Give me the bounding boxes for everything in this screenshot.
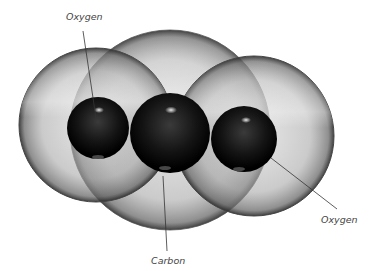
nucleus-carbon xyxy=(130,93,210,173)
nucleus-oxygen-right xyxy=(211,106,277,172)
label-oxygen-right: Oxygen xyxy=(321,214,358,225)
label-oxygen-left: Oxygen xyxy=(66,11,103,22)
nucleus-oxygen-left xyxy=(67,97,129,159)
label-carbon: Carbon xyxy=(151,255,185,266)
co2-molecule-diagram xyxy=(0,0,376,271)
